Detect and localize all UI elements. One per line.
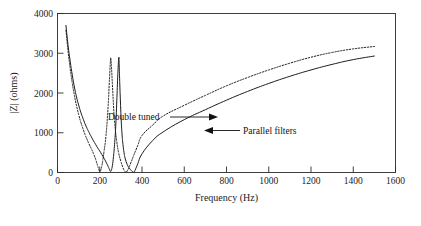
chart-figure: 0 1000 2000 3000 4000 0 200 400 600 800 … — [0, 0, 421, 226]
chart-svg: 0 1000 2000 3000 4000 0 200 400 600 800 … — [0, 0, 421, 226]
y-tick-label: 3000 — [34, 49, 53, 59]
y-tick-label: 4000 — [34, 9, 53, 19]
x-tick-label: 1200 — [302, 176, 321, 186]
x-tick-label: 200 — [93, 176, 108, 186]
x-tick-label: 400 — [135, 176, 150, 186]
x-tick-label: 0 — [55, 176, 60, 186]
x-tick-label: 1600 — [386, 176, 405, 186]
x-axis-title: Frequency (Hz) — [195, 192, 258, 204]
annotation-parallel-filters-label: Parallel filters — [243, 126, 297, 136]
y-axis-title: |Z| (ohms) — [8, 73, 20, 114]
x-tick-label: 1000 — [259, 176, 278, 186]
y-tick-label: 1000 — [34, 128, 53, 138]
x-tick-label: 800 — [219, 176, 234, 186]
y-tick-label: 2000 — [34, 89, 53, 99]
x-tick-label: 1400 — [344, 176, 363, 186]
y-tick-label: 0 — [48, 168, 53, 178]
annotation-double-tuned-label: Double tuned — [108, 112, 160, 122]
x-tick-label: 600 — [177, 176, 192, 186]
